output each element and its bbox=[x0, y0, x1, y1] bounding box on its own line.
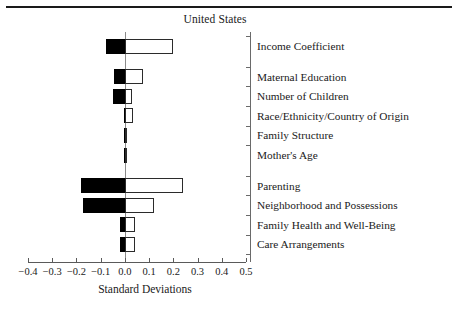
bar-positive bbox=[125, 198, 154, 213]
x-axis-tick bbox=[246, 258, 247, 262]
x-axis-line bbox=[28, 262, 246, 263]
category-label: Family Health and Well-Being bbox=[257, 219, 396, 231]
x-axis-tick bbox=[76, 258, 77, 262]
plot-area: −0.4−0.3−0.2−0.10.00.10.20.30.40.5Standa… bbox=[0, 0, 458, 309]
category-label: Family Structure bbox=[257, 129, 333, 141]
x-axis-tick-label: 0.5 bbox=[239, 266, 252, 277]
x-axis-tick-label: −0.3 bbox=[43, 266, 62, 277]
bar-negative bbox=[114, 69, 125, 84]
category-axis-tick bbox=[246, 215, 250, 216]
bar-positive bbox=[125, 108, 133, 123]
category-axis-tick bbox=[246, 254, 250, 255]
category-label: Maternal Education bbox=[257, 71, 346, 83]
category-axis-tick bbox=[246, 36, 250, 37]
bar-positive bbox=[125, 128, 127, 143]
bar-positive bbox=[125, 237, 135, 252]
category-axis-tick bbox=[246, 195, 250, 196]
category-label: Number of Children bbox=[257, 90, 349, 102]
category-axis-tick bbox=[246, 235, 250, 236]
x-axis-tick-label: −0.2 bbox=[67, 266, 86, 277]
category-label: Race/Ethnicity/Country of Origin bbox=[257, 110, 409, 122]
x-axis-title: Standard Deviations bbox=[98, 283, 192, 295]
x-axis-tick bbox=[52, 258, 53, 262]
figure-panel: United States −0.4−0.3−0.2−0.10.00.10.20… bbox=[0, 0, 458, 309]
category-label: Mother's Age bbox=[257, 149, 318, 161]
category-axis-line bbox=[250, 32, 251, 262]
x-axis-tick-label: 0.3 bbox=[191, 266, 204, 277]
category-label: Care Arrangements bbox=[257, 238, 345, 250]
category-label: Neighborhood and Possessions bbox=[257, 199, 398, 211]
bar-negative bbox=[113, 89, 125, 104]
category-label: Parenting bbox=[257, 180, 300, 192]
x-axis-tick bbox=[198, 258, 199, 262]
x-axis-tick-label: 0.4 bbox=[215, 266, 228, 277]
bar-positive bbox=[125, 89, 132, 104]
x-axis-tick bbox=[222, 258, 223, 262]
bar-negative bbox=[81, 178, 125, 193]
category-axis-tick bbox=[246, 67, 250, 68]
x-axis-tick bbox=[149, 258, 150, 262]
category-axis-tick bbox=[246, 86, 250, 87]
bar-positive bbox=[125, 69, 143, 84]
x-axis-tick bbox=[101, 258, 102, 262]
x-axis-tick-label: −0.4 bbox=[18, 266, 37, 277]
bar-positive bbox=[125, 148, 127, 163]
bar-positive bbox=[125, 178, 183, 193]
category-axis-tick bbox=[246, 176, 250, 177]
category-axis-tick bbox=[246, 126, 250, 127]
x-axis-tick-label: −0.1 bbox=[91, 266, 110, 277]
x-axis-tick bbox=[125, 258, 126, 262]
category-axis-tick bbox=[246, 145, 250, 146]
x-axis-tick bbox=[173, 258, 174, 262]
x-axis-tick-label: 0.0 bbox=[118, 266, 131, 277]
bar-negative bbox=[106, 39, 125, 54]
bar-negative bbox=[83, 198, 125, 213]
x-axis-tick-label: 0.1 bbox=[143, 266, 156, 277]
x-axis-tick bbox=[28, 258, 29, 262]
category-axis-tick bbox=[246, 106, 250, 107]
bar-positive bbox=[125, 39, 173, 54]
category-label: Income Coefficient bbox=[257, 40, 344, 52]
x-axis-tick-label: 0.2 bbox=[167, 266, 180, 277]
bar-positive bbox=[125, 217, 135, 232]
